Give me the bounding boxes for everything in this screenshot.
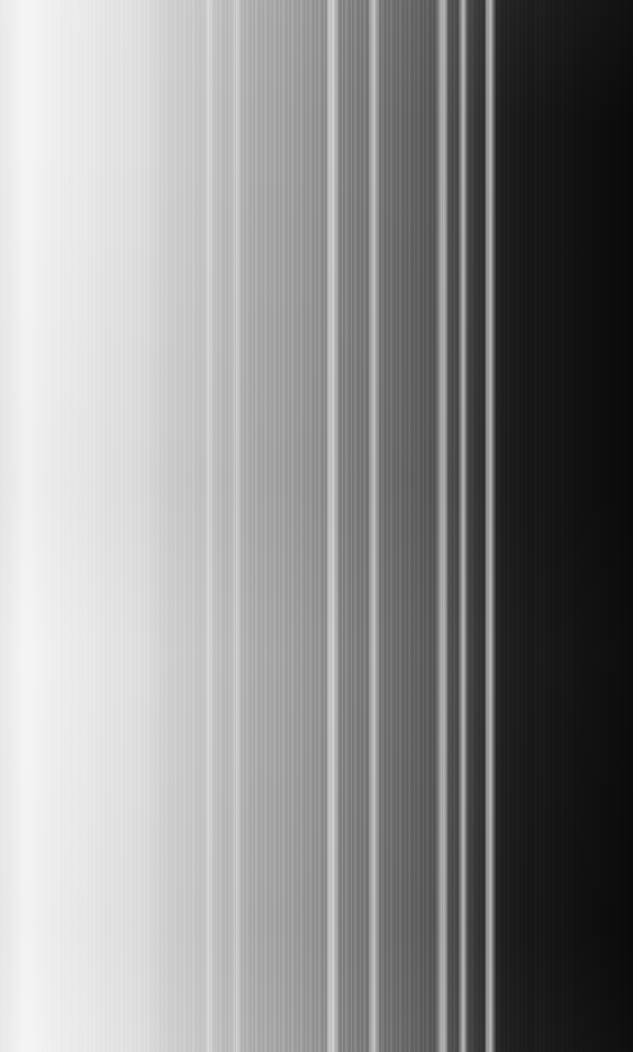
scan-striation-texture — [0, 0, 638, 1052]
ring-scan-image — [0, 0, 638, 1052]
frame-edge-border — [633, 0, 638, 1052]
